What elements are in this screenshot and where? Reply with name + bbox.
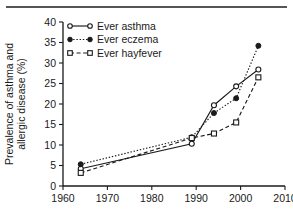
data-point-marker: [88, 24, 93, 29]
data-point-marker: [256, 43, 261, 48]
legend-label: Ever hayfever: [97, 47, 162, 59]
series-line: [81, 46, 259, 164]
data-point-marker: [78, 162, 83, 167]
data-point-marker: [88, 51, 93, 56]
y-axis-title-line1: Prevalence of asthma and: [3, 43, 15, 165]
legend-item[interactable]: Ever asthma: [68, 20, 156, 32]
data-series: [78, 75, 261, 176]
series-line: [81, 70, 259, 169]
data-point-marker: [211, 111, 216, 116]
data-point-marker: [68, 51, 73, 56]
y-tick-label: 40: [44, 16, 56, 28]
data-point-marker: [234, 84, 239, 89]
data-point-marker: [256, 67, 261, 72]
y-tick-label: 30: [44, 57, 56, 69]
y-axis-title: Prevalence of asthma and allergic diseas…: [3, 43, 27, 165]
y-axis-ticks: 0510152025303540: [44, 16, 63, 192]
x-tick-label: 2010: [273, 192, 293, 204]
data-point-marker: [189, 141, 194, 146]
x-tick-label: 2000: [229, 192, 253, 204]
y-tick-label: 20: [44, 98, 56, 110]
y-tick-label: 5: [50, 159, 56, 171]
y-axis-title-line2: allergic disease (%): [15, 58, 27, 150]
data-point-marker: [256, 75, 261, 80]
data-point-marker: [68, 24, 73, 29]
legend-item[interactable]: Ever eczema: [68, 33, 159, 45]
x-tick-label: 1980: [140, 192, 164, 204]
x-axis-ticks: 196019701980199020002010: [51, 186, 293, 204]
data-series-layer: [78, 43, 261, 175]
y-tick-label: 35: [44, 36, 56, 48]
data-point-marker: [234, 96, 239, 101]
data-point-marker: [234, 120, 239, 125]
x-tick-label: 1960: [51, 192, 75, 204]
chart-figure: Prevalence of asthma and allergic diseas…: [0, 0, 293, 212]
y-tick-label: 15: [44, 118, 56, 130]
chart-legend: Ever asthmaEver eczemaEver hayfever: [68, 20, 163, 59]
legend-label: Ever eczema: [97, 33, 158, 45]
top-divider-rule: [6, 6, 287, 8]
data-point-marker: [68, 37, 73, 42]
data-point-marker: [78, 170, 83, 175]
legend-label: Ever asthma: [97, 20, 156, 32]
data-point-marker: [211, 131, 216, 136]
y-tick-label: 25: [44, 77, 56, 89]
legend-item[interactable]: Ever hayfever: [68, 47, 163, 59]
data-series: [78, 67, 261, 171]
data-point-marker: [88, 37, 93, 42]
data-point-marker: [211, 103, 216, 108]
x-tick-label: 1970: [96, 192, 120, 204]
line-chart-canvas: Prevalence of asthma and allergic diseas…: [0, 0, 293, 212]
x-tick-label: 1990: [185, 192, 209, 204]
series-line: [81, 77, 259, 173]
data-point-marker: [189, 136, 194, 141]
y-tick-label: 10: [44, 139, 56, 151]
y-tick-label: 0: [50, 180, 56, 192]
